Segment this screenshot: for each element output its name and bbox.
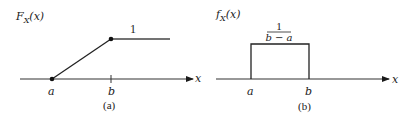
pdf-tick-label-a: a [247,85,254,98]
pdf-x-axis-label: x [392,73,399,86]
panel-pdf: fX(x) x 1 b − a a b (b) [215,8,399,113]
cdf-point-a [50,77,55,82]
cdf-level-label: 1 [130,22,136,36]
cdf-point-b [109,37,114,42]
pdf-y-label: fX(x) [215,8,241,23]
pdf-height-numerator: 1 [276,20,282,32]
pdf-height-denominator: b − a [265,32,292,43]
cdf-ramp-line [52,39,111,79]
cdf-caption: (a) [103,99,116,112]
cdf-x-axis-label: x [195,72,202,85]
pdf-tick-label-b: b [305,85,312,98]
panel-cdf: FX(x) x 1 a b (a) [15,10,202,112]
pdf-rectangle [251,44,309,79]
cdf-tick-label-a: a [48,85,55,98]
cdf-y-label: FX(x) [15,10,44,25]
uniform-distribution-figure: FX(x) x 1 a b (a) fX(x) x 1 b − a a b (b… [0,0,410,121]
pdf-caption: (b) [298,100,311,113]
cdf-tick-label-b: b [108,85,115,98]
